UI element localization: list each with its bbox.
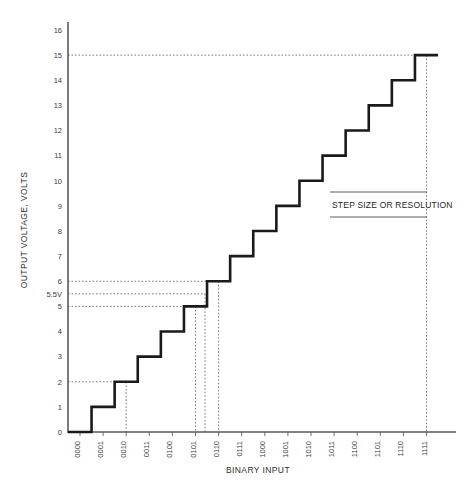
y-axis-label-5point5v: 5.5V	[47, 290, 62, 299]
y-axis-label-3: 3	[58, 352, 62, 361]
y-axis-label-2: 2	[58, 378, 62, 387]
y-axis-label-8: 8	[58, 227, 62, 236]
x-axis-label-0110: 0110	[212, 441, 221, 457]
x-axis-label-0000: 0000	[73, 441, 82, 458]
x-axis-label-1011: 1011	[327, 441, 336, 457]
x-axis-label-1010: 1010	[304, 441, 313, 458]
y-axis-label-4: 4	[58, 327, 62, 336]
y-axis-label-11: 11	[54, 151, 62, 160]
y-axis-label-6: 6	[58, 277, 62, 286]
y-axis-title: OUTPUT VOLTAGE, VOLTS	[19, 172, 29, 288]
x-axis-label-1110: 1110	[396, 441, 405, 457]
y-axis-label-5: 5	[58, 302, 62, 311]
y-axis-label-0: 0	[58, 428, 62, 437]
y-axis-label-14: 14	[54, 76, 62, 85]
x-axis-label-0001: 0001	[96, 441, 105, 458]
annotation-label-step-size: STEP SIZE OR RESOLUTION	[332, 200, 453, 210]
x-axis-label-0101: 0101	[189, 441, 198, 458]
x-axis-title: BINARY INPUT	[226, 465, 290, 475]
y-axis-label-12: 12	[54, 126, 62, 135]
chart-background	[0, 0, 476, 500]
x-axis-label-0010: 0010	[119, 441, 128, 458]
y-axis-label-10: 10	[54, 177, 62, 186]
x-axis-label-0011: 0011	[142, 441, 151, 457]
y-axis-label-13: 13	[54, 101, 62, 110]
x-axis-label-0111: 0111	[235, 441, 244, 457]
x-axis-label-1101: 1101	[373, 441, 382, 457]
y-axis-label-16: 16	[54, 26, 62, 35]
y-axis-label-1: 1	[58, 403, 62, 412]
dac-transfer-chart: 012345678910111213141516 000000010010001…	[0, 0, 476, 500]
x-axis-label-1000: 1000	[258, 441, 267, 458]
chart-canvas: 012345678910111213141516 000000010010001…	[0, 0, 476, 500]
x-axis-label-1100: 1100	[350, 441, 359, 457]
x-axis-label-1111: 1111	[420, 441, 429, 456]
y-axis-label-15: 15	[54, 51, 62, 60]
y-axis-label-9: 9	[58, 202, 62, 211]
y-axis-label-7: 7	[58, 252, 62, 261]
x-axis-label-1001: 1001	[281, 441, 290, 458]
x-axis-label-0100: 0100	[165, 441, 174, 458]
